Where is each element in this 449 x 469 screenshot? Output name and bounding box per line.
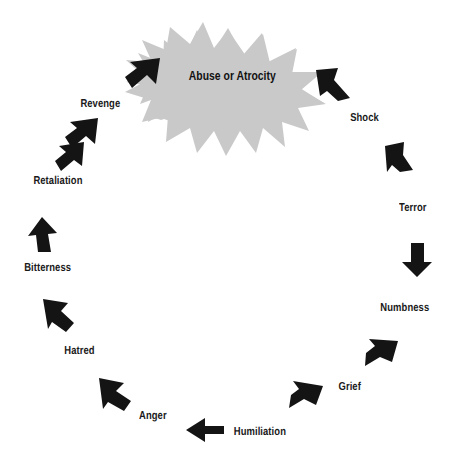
node-label-humiliation: Humiliation	[234, 427, 286, 439]
node-label-numbness: Numbness	[380, 303, 429, 315]
arrow-to-shock	[316, 68, 350, 101]
arrow-to-terror	[385, 142, 413, 172]
node-label-terror: Terror	[399, 203, 427, 215]
node-label-hatred: Hatred	[64, 346, 94, 358]
cycle-diagram: Abuse or Atrocity Shock Terror Numbness …	[0, 0, 449, 469]
arrow-to-humiliation	[289, 381, 323, 408]
starburst-shape	[125, 22, 326, 156]
arrow-to-revenge	[55, 142, 84, 171]
node-label-shock: Shock	[350, 113, 379, 125]
arrow-to-numbness	[402, 243, 432, 277]
node-label-bitterness: Bitterness	[24, 263, 71, 275]
node-label-revenge: Revenge	[80, 99, 120, 111]
arrow-to-grief	[365, 339, 398, 366]
arrow-to-hatred	[99, 378, 131, 411]
arrow-to-retaliation	[28, 217, 57, 252]
arrow-to-bitterness	[43, 299, 74, 332]
center-node-label: Abuse or Atrocity	[189, 69, 276, 82]
node-label-retaliation: Retaliation	[33, 176, 82, 188]
node-label-grief: Grief	[338, 382, 360, 394]
arrow-to-anger	[186, 418, 224, 442]
node-label-anger: Anger	[139, 411, 167, 423]
